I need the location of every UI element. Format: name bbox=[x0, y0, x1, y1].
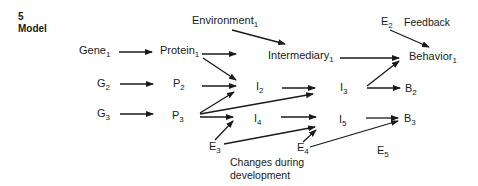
node-environment1: Environment1 bbox=[192, 15, 258, 29]
arrow-protein1-i2 bbox=[203, 58, 236, 80]
feedback-label: Feedback bbox=[404, 17, 450, 28]
changes-label-line2: development bbox=[230, 170, 290, 181]
node-e2: E2 bbox=[381, 16, 393, 30]
arrow-e4-b3 bbox=[310, 121, 398, 147]
figure-number: 5 bbox=[18, 12, 24, 22]
node-b2: B2 bbox=[405, 83, 417, 97]
node-i3: I3 bbox=[340, 82, 348, 96]
arrow-i3-behavior1 bbox=[367, 61, 399, 86]
node-intermediary1: Intermediary1 bbox=[268, 50, 334, 64]
changes-label-line1: Changes during bbox=[230, 157, 304, 168]
node-g2: G2 bbox=[97, 78, 110, 92]
arrow-p3-i2 bbox=[200, 92, 234, 113]
node-gene1: Gene1 bbox=[79, 45, 110, 59]
node-g3: G3 bbox=[97, 108, 110, 122]
node-i5: I5 bbox=[339, 114, 347, 128]
node-p2: P2 bbox=[173, 78, 185, 92]
figure-title: Model bbox=[18, 24, 47, 34]
node-protein1: Protein1 bbox=[160, 45, 199, 59]
arrow-p3-i3 bbox=[200, 94, 313, 114]
node-i4: I4 bbox=[254, 113, 262, 127]
arrow-environment1-intermediary1 bbox=[232, 30, 285, 44]
node-e3: E3 bbox=[209, 141, 221, 155]
node-behavior1: Behavior1 bbox=[409, 51, 457, 65]
node-e5: E5 bbox=[377, 145, 389, 159]
node-e4: E4 bbox=[297, 142, 309, 156]
node-i2: I2 bbox=[256, 81, 264, 95]
node-b3: B3 bbox=[404, 113, 416, 127]
arrow-e2-behavior1 bbox=[390, 30, 429, 47]
arrow-e4-i5 bbox=[303, 130, 316, 142]
arrow-e3-i4 bbox=[215, 121, 233, 140]
node-p3: P3 bbox=[172, 110, 184, 124]
